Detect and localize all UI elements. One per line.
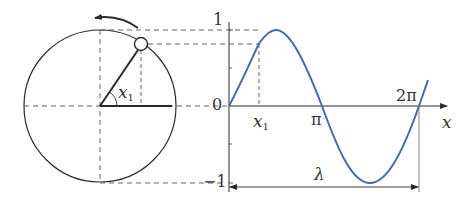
y-label-0: 0 bbox=[212, 95, 222, 114]
wavelength-label: λ bbox=[313, 164, 325, 184]
angle-label: x1 bbox=[118, 82, 134, 103]
unit-circle-group: x1 bbox=[24, 17, 229, 183]
two-pi-tick-label: 2π bbox=[396, 86, 417, 105]
y-label-1: 1 bbox=[213, 10, 223, 29]
y-label-minus-1: −1 bbox=[203, 172, 227, 191]
sine-circle-diagram: x1 1 0 −1 x1 π 2π x λ bbox=[0, 0, 461, 209]
sine-graph: 1 0 −1 x1 π 2π x λ bbox=[203, 10, 452, 192]
rotating-point bbox=[135, 38, 148, 51]
x-axis-label: x bbox=[442, 112, 452, 132]
x1-tick-label: x1 bbox=[253, 111, 269, 132]
rotation-arrow-icon bbox=[95, 17, 138, 28]
angle-arc bbox=[110, 92, 118, 106]
pi-tick-label: π bbox=[311, 110, 322, 129]
